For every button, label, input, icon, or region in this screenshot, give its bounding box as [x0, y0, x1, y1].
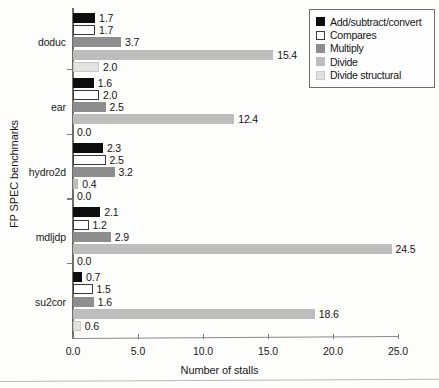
bar — [73, 13, 95, 23]
legend-label: Compares — [330, 29, 376, 41]
bar-value-label: 2.0 — [103, 89, 117, 101]
page-bottom-rule — [0, 379, 439, 382]
legend-swatch-icon — [316, 71, 325, 80]
category-label-text: su2cor — [35, 296, 66, 308]
bar-value-label: 0.7 — [86, 271, 100, 283]
bar — [73, 167, 115, 177]
bar — [73, 90, 99, 100]
x-axis-title: Number of stalls — [0, 364, 439, 376]
y-tick — [67, 69, 72, 70]
legend-label: Divide structural — [330, 69, 401, 81]
legend-label: Multiply — [330, 42, 364, 54]
x-tick-label: 15.0 — [258, 345, 278, 357]
bar — [73, 78, 94, 88]
x-tick — [203, 334, 204, 339]
legend-swatch-icon — [316, 17, 325, 26]
bar — [73, 50, 273, 60]
bar-value-label: 2.3 — [107, 142, 121, 154]
x-tick-label: 10.0 — [193, 345, 213, 357]
x-tick-label: 5.0 — [131, 345, 145, 357]
bar-value-label: 3.2 — [119, 166, 133, 178]
bar-value-label: 1.7 — [99, 12, 113, 24]
bar — [73, 272, 82, 282]
bar-value-label: 1.7 — [99, 24, 113, 36]
bar-value-label: 1.5 — [97, 283, 111, 295]
x-tick-label: 25.0 — [388, 345, 408, 357]
bar-value-label: 0.4 — [82, 178, 96, 190]
legend-item: Add/subtract/convert — [316, 15, 429, 28]
x-tick — [333, 334, 334, 339]
bar — [73, 62, 99, 72]
bar — [73, 143, 103, 153]
bar-chart: 0.05.010.015.020.025.0 doducearhydro2dmd… — [0, 0, 439, 388]
bar — [73, 244, 392, 254]
bar — [73, 102, 106, 112]
bar — [73, 309, 315, 319]
bar — [73, 37, 121, 47]
bar-value-label: 3.7 — [125, 36, 139, 48]
bar — [73, 114, 234, 124]
y-tick — [67, 134, 72, 135]
x-tick — [398, 334, 399, 339]
legend-item: Multiply — [316, 42, 429, 55]
bar-value-label: 24.5 — [396, 243, 416, 255]
x-tick-label: 20.0 — [323, 345, 343, 357]
bar-value-label: 18.6 — [319, 308, 339, 320]
x-tick-label: 0.0 — [66, 345, 80, 357]
bar — [73, 179, 78, 189]
bar-value-label: 2.5 — [110, 101, 124, 113]
bar — [73, 321, 81, 331]
legend-item: Compares — [316, 28, 429, 41]
x-tick — [73, 334, 74, 339]
legend-item: Divide structural — [316, 69, 429, 82]
bar-value-label: 2.9 — [115, 231, 129, 243]
bar — [73, 25, 95, 35]
legend-label: Divide — [330, 56, 358, 68]
y-tick — [67, 263, 72, 264]
x-tick — [138, 334, 139, 339]
legend-swatch-icon — [316, 57, 325, 66]
y-axis-title: FP SPEC benchmarks — [8, 99, 20, 249]
bar-value-label: 0.6 — [85, 320, 99, 332]
category-label-text: ear — [51, 101, 66, 113]
bar-value-label: 12.4 — [238, 113, 258, 125]
category-label-text: hydro2d — [29, 166, 66, 178]
bar-value-label: 1.6 — [98, 77, 112, 89]
bar-value-label: 2.1 — [104, 206, 118, 218]
y-tick — [67, 198, 72, 199]
bar-value-label: 0.0 — [77, 126, 91, 138]
bar-value-label: 0.0 — [77, 255, 91, 267]
bar-value-label: 0.0 — [77, 190, 91, 202]
chart-legend: Add/subtract/convertComparesMultiplyDivi… — [309, 9, 435, 88]
bar-value-label: 1.2 — [93, 219, 107, 231]
bar — [73, 284, 93, 294]
legend-swatch-icon — [316, 31, 325, 40]
bar-value-label: 2.5 — [110, 154, 124, 166]
legend-item: Divide — [316, 55, 429, 68]
bar-value-label: 15.4 — [277, 49, 297, 61]
bar — [73, 297, 94, 307]
bar — [73, 207, 100, 217]
bar — [73, 155, 106, 165]
bar — [73, 220, 89, 230]
x-tick — [268, 334, 269, 339]
bar-value-label: 2.0 — [103, 61, 117, 73]
bar — [73, 232, 111, 242]
legend-swatch-icon — [316, 44, 325, 53]
category-label-text: mdljdp — [36, 231, 66, 243]
x-axis-line — [72, 336, 399, 339]
legend-label: Add/subtract/convert — [330, 16, 421, 28]
bar-value-label: 1.6 — [98, 296, 112, 308]
category-label-text: doduc — [38, 36, 66, 48]
